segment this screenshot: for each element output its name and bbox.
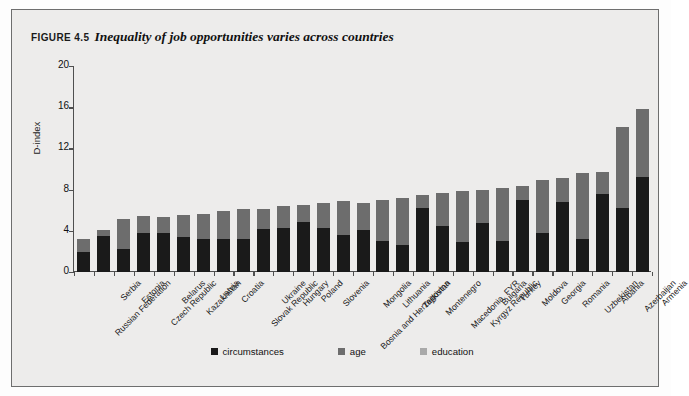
x-axis-tick-mark xyxy=(174,272,175,276)
x-axis-tick-mark xyxy=(652,272,653,276)
x-axis-tick-mark xyxy=(453,272,454,276)
x-axis-tick-mark xyxy=(154,272,155,276)
legend-swatch-icon xyxy=(211,348,218,355)
bar-segment-age xyxy=(197,214,210,239)
bar-segment-circumstances xyxy=(436,226,449,272)
bar-segment-circumstances xyxy=(237,239,250,272)
bar-column[interactable] xyxy=(596,172,609,272)
x-axis-tick-mark xyxy=(473,272,474,276)
bar-column[interactable] xyxy=(456,191,469,272)
bar-segment-age xyxy=(516,186,529,200)
bar-column[interactable] xyxy=(97,230,110,272)
x-axis-tick-mark xyxy=(532,272,533,276)
x-axis-tick-mark xyxy=(74,272,75,276)
bar-column[interactable] xyxy=(396,198,409,272)
y-axis-tick-mark xyxy=(69,107,74,108)
x-axis-tick-mark xyxy=(194,272,195,276)
bar-segment-age xyxy=(376,200,389,241)
bar-column[interactable] xyxy=(177,215,190,272)
bar-segment-circumstances xyxy=(456,242,469,272)
bar-column[interactable] xyxy=(516,186,529,273)
bar-segment-circumstances xyxy=(177,237,190,272)
bar-segment-circumstances xyxy=(217,239,230,272)
bar-column[interactable] xyxy=(257,209,270,272)
legend-item[interactable]: age xyxy=(338,346,366,357)
bar-segment-age xyxy=(456,191,469,243)
bar-column[interactable] xyxy=(77,239,90,272)
x-axis-tick-mark xyxy=(114,272,115,276)
bar-column[interactable] xyxy=(317,203,330,272)
figure-caption: Inequality of job opportunities varies a… xyxy=(94,29,393,44)
bar-segment-age xyxy=(277,206,290,228)
legend-label: circumstances xyxy=(223,346,284,357)
bar-segment-age xyxy=(157,217,170,232)
bar-segment-age xyxy=(217,211,230,239)
bars-layer xyxy=(74,66,652,272)
bar-column[interactable] xyxy=(496,188,509,272)
x-axis-tick-mark xyxy=(512,272,513,276)
y-axis-tick-label: 12 xyxy=(49,142,69,152)
bar-segment-circumstances xyxy=(77,252,90,272)
bar-column[interactable] xyxy=(157,217,170,272)
bar-segment-age xyxy=(77,239,90,252)
bar-segment-circumstances xyxy=(277,228,290,272)
bar-column[interactable] xyxy=(117,219,130,272)
x-axis-tick-mark xyxy=(353,272,354,276)
bar-segment-age xyxy=(536,180,549,233)
bar-column[interactable] xyxy=(137,216,150,272)
bar-column[interactable] xyxy=(376,200,389,272)
x-axis-tick-mark xyxy=(253,272,254,276)
bar-segment-age xyxy=(337,201,350,235)
x-axis-tick-mark xyxy=(592,272,593,276)
x-axis-tick-mark xyxy=(413,272,414,276)
bar-segment-age xyxy=(436,193,449,226)
x-axis-tick-mark xyxy=(233,272,234,276)
bar-column[interactable] xyxy=(237,209,250,272)
x-axis-tick-mark xyxy=(373,272,374,276)
x-axis-tick-mark xyxy=(134,272,135,276)
y-axis-tick-label: 16 xyxy=(49,101,69,111)
bar-segment-age xyxy=(616,127,629,208)
bar-segment-age xyxy=(496,188,509,242)
bar-column[interactable] xyxy=(416,195,429,272)
bar-segment-circumstances xyxy=(496,241,509,272)
x-axis-tick-mark xyxy=(433,272,434,276)
bar-segment-circumstances xyxy=(556,202,569,272)
bar-column[interactable] xyxy=(337,201,350,272)
legend-item[interactable]: education xyxy=(420,346,474,357)
bar-segment-circumstances xyxy=(317,228,330,272)
legend-item[interactable]: circumstances xyxy=(211,346,284,357)
y-axis-tick-label: 8 xyxy=(49,184,69,194)
bar-column[interactable] xyxy=(616,127,629,272)
x-axis-tick-mark xyxy=(333,272,334,276)
x-axis-tick-mark xyxy=(632,272,633,276)
bar-segment-age xyxy=(297,205,310,221)
x-axis-tick-mark xyxy=(612,272,613,276)
bar-column[interactable] xyxy=(217,211,230,272)
bar-segment-age xyxy=(257,209,270,229)
bar-column[interactable] xyxy=(277,206,290,272)
y-axis-tick-mark xyxy=(69,231,74,232)
bar-column[interactable] xyxy=(476,190,489,272)
bar-column[interactable] xyxy=(197,214,210,272)
bar-column[interactable] xyxy=(357,203,370,272)
bar-segment-age xyxy=(556,178,569,202)
bar-column[interactable] xyxy=(556,178,569,272)
y-axis-tick-mark xyxy=(69,190,74,191)
bar-segment-circumstances xyxy=(357,230,370,272)
bar-segment-circumstances xyxy=(536,233,549,272)
chart-canvas: D-index 048121620 circumstancesageeducat… xyxy=(31,54,653,364)
chart-legend: circumstancesageeducation xyxy=(31,346,653,357)
bar-segment-age xyxy=(317,203,330,228)
legend-label: age xyxy=(350,346,366,357)
bar-column[interactable] xyxy=(576,173,589,272)
bar-segment-circumstances xyxy=(297,222,310,272)
bar-segment-circumstances xyxy=(636,177,649,272)
bar-column[interactable] xyxy=(536,180,549,272)
chart-plot-region: D-index 048121620 circumstancesageeducat… xyxy=(31,54,653,364)
bar-column[interactable] xyxy=(297,205,310,272)
bar-column[interactable] xyxy=(636,109,649,272)
y-axis-tick-label: 4 xyxy=(49,225,69,235)
y-axis-title: D-index xyxy=(31,141,42,155)
bar-column[interactable] xyxy=(436,193,449,272)
